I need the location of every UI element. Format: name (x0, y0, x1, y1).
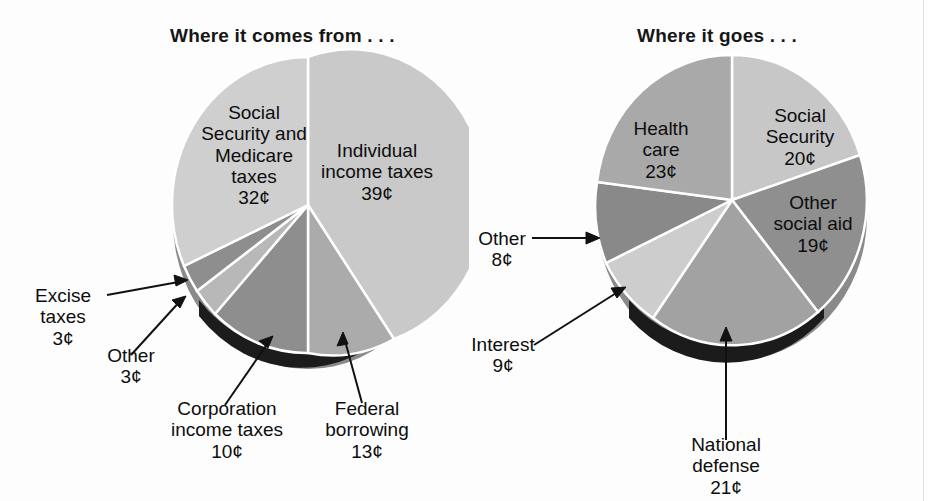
left-chart-title: Where it comes from . . . (170, 25, 395, 47)
label-social-security-and-medicare-taxes: Social Security and Medicare taxes 32¢ (188, 102, 320, 208)
right-chart-title: Where it goes . . . (637, 25, 797, 47)
label-corporation-income-taxes: Corporation income taxes 10¢ (147, 398, 307, 462)
pie-chart-where-it-comes-from: Where it comes from . . . Social Securit… (0, 0, 469, 501)
label-other: Other 3¢ (91, 345, 171, 388)
page-right-margin (923, 0, 938, 501)
figure-canvas: Where it comes from . . . Social Securit… (0, 0, 938, 501)
label-health-care: Health care 23¢ (609, 118, 713, 182)
label-excise-taxes: Excise taxes 3¢ (22, 285, 104, 349)
label-interest: Interest 9¢ (469, 334, 537, 377)
label-other-spending: Other 8¢ (469, 228, 535, 271)
label-federal-borrowing: Federal borrowing 13¢ (310, 398, 424, 462)
label-other-social-aid: Other social aid 19¢ (749, 192, 877, 256)
label-national-defense: National defense 21¢ (666, 434, 786, 498)
label-social-security: Social Security 20¢ (744, 105, 856, 169)
pie-chart-where-it-goes: Where it goes . . . Social Security 20¢ … (469, 0, 938, 501)
label-individual-income-taxes: Individual income taxes 39¢ (311, 140, 443, 204)
